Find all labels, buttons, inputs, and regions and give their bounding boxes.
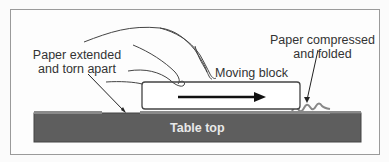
leader-line-torn: [88, 74, 125, 112]
label-line: and folded: [265, 47, 380, 61]
friction-diagram: [0, 0, 389, 162]
label-line: Paper compressed: [265, 33, 380, 47]
label-line: and torn apart: [32, 62, 122, 76]
moving-block: [142, 82, 300, 109]
label-table-top: Table top: [170, 121, 225, 135]
label-moving-block: Moving block: [215, 66, 288, 80]
paper-right-strip: [330, 111, 361, 114]
label-paper-extended: Paper extended and torn apart: [32, 48, 122, 76]
label-line: Paper extended: [32, 48, 122, 62]
label-paper-compressed: Paper compressed and folded: [265, 33, 380, 61]
paper-left-strip: [34, 111, 102, 114]
